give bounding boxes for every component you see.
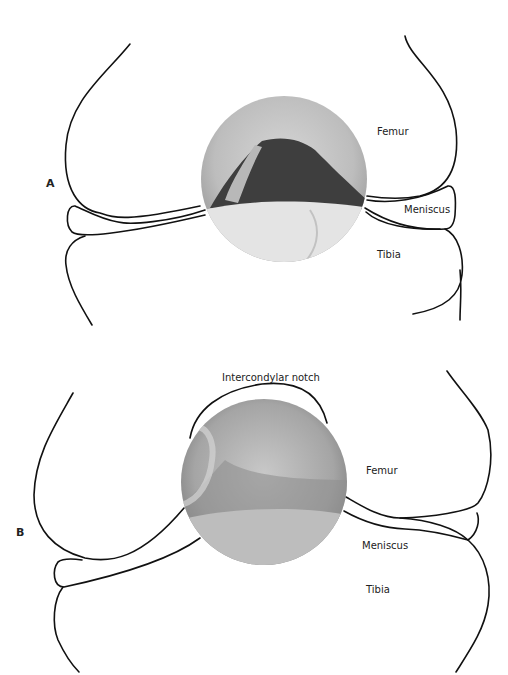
panel-label-b: B — [16, 526, 24, 539]
left-meniscus-outline — [67, 206, 205, 235]
right-meniscus-outline-b — [344, 511, 478, 540]
label-tibia-a: Tibia — [376, 249, 401, 260]
label-intercondylar-notch: Intercondylar notch — [222, 372, 320, 383]
label-femur-b: Femur — [366, 465, 398, 476]
left-femur-outline — [65, 44, 200, 217]
left-tibia-outline — [66, 236, 92, 325]
label-meniscus-b: Meniscus — [362, 540, 408, 551]
label-tibia-b: Tibia — [365, 584, 390, 595]
label-meniscus-a: Meniscus — [404, 204, 450, 215]
left-femur-outline-b — [34, 393, 184, 560]
right-femur-outline-b — [346, 371, 491, 518]
right-tibia-outline-b — [456, 540, 489, 672]
label-femur-a: Femur — [377, 126, 409, 137]
knee-arthroscopy-diagram: A Femur Meniscus Tibia Intercond — [0, 0, 508, 675]
left-meniscus-outline-b — [54, 538, 200, 587]
arthroscopic-view-a — [195, 96, 370, 270]
panel-a: A Femur Meniscus Tibia — [46, 36, 462, 325]
right-tibia-outline — [413, 229, 462, 320]
right-femur-outline — [367, 36, 457, 198]
panel-b: Intercondylar notch B Femur Meniscus Tib… — [16, 371, 491, 672]
arthroscopic-view-b — [181, 399, 347, 570]
panel-label-a: A — [46, 177, 55, 190]
left-tibia-outline-b — [54, 587, 79, 672]
